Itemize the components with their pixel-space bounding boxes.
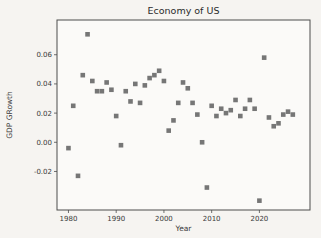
data-point (252, 106, 257, 111)
x-tick-label: 1980 (60, 215, 78, 223)
data-point (195, 112, 200, 117)
x-tick-label: 2010 (203, 215, 221, 223)
data-point (123, 89, 128, 94)
data-point (181, 80, 186, 85)
x-tick-label: 1990 (107, 215, 125, 223)
data-point (157, 68, 162, 73)
data-point (143, 83, 148, 88)
data-point (71, 104, 76, 109)
data-point (95, 89, 100, 94)
data-point (109, 87, 114, 92)
data-point (100, 89, 105, 94)
data-point (286, 109, 291, 114)
data-point (257, 198, 262, 203)
data-point (205, 185, 210, 190)
data-point (114, 114, 119, 119)
data-point (276, 121, 281, 126)
x-tick-label: 2000 (155, 215, 173, 223)
data-point (281, 112, 286, 117)
data-point (171, 118, 176, 123)
data-point (76, 174, 81, 179)
data-point (90, 79, 95, 84)
data-point (267, 115, 272, 120)
y-tick-label: 0.06 (36, 51, 52, 59)
data-point (271, 124, 276, 129)
x-tick-label: 2020 (250, 215, 268, 223)
data-point (80, 73, 85, 78)
chart-title: Economy of US (148, 5, 220, 16)
data-point (262, 55, 267, 60)
data-point (224, 111, 229, 116)
figure: 198019902000201020200.060.040.020.00-0.0… (0, 0, 321, 238)
data-point (190, 101, 195, 106)
data-point (219, 106, 224, 111)
y-axis-label: GDP GRowth (5, 91, 14, 139)
data-point (128, 99, 133, 104)
y-tick-label: 0.04 (36, 80, 52, 88)
y-tick-label: 0.00 (36, 139, 52, 147)
data-point (119, 143, 124, 148)
data-point (162, 79, 167, 84)
data-point (176, 101, 181, 106)
data-point (209, 104, 214, 109)
data-point (243, 106, 248, 111)
data-point (233, 98, 238, 103)
data-point (200, 140, 205, 145)
data-point (228, 108, 233, 113)
plot-area (57, 20, 310, 210)
data-point (166, 128, 171, 133)
data-point (238, 114, 243, 119)
data-point (152, 73, 157, 78)
scatter-plot: 198019902000201020200.060.040.020.00-0.0… (0, 0, 321, 238)
data-point (147, 76, 152, 81)
data-point (185, 86, 190, 91)
y-tick-label: -0.02 (34, 168, 52, 176)
x-axis-label: Year (175, 224, 193, 233)
data-point (104, 80, 109, 85)
data-point (214, 114, 219, 119)
data-point (66, 146, 71, 151)
data-point (133, 82, 138, 87)
data-point (291, 112, 296, 117)
data-point (248, 98, 253, 103)
data-point (85, 32, 90, 37)
y-tick-label: 0.02 (36, 110, 52, 118)
data-point (138, 101, 143, 106)
